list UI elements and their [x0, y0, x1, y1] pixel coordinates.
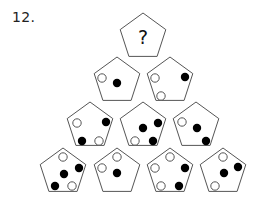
white-dot-icon	[166, 153, 174, 161]
white-dot-icon	[157, 182, 165, 190]
pentagon-p2-1	[94, 57, 140, 100]
black-dot-icon	[202, 137, 210, 145]
black-dot-icon	[149, 137, 157, 145]
white-dot-icon	[59, 153, 67, 161]
white-dot-icon	[211, 182, 219, 190]
black-dot-icon	[60, 170, 68, 178]
black-dot-icon	[102, 118, 110, 126]
black-dot-icon	[113, 79, 121, 87]
black-dot-icon	[193, 124, 201, 132]
white-dot-icon	[151, 74, 159, 82]
question-mark: ?	[138, 26, 148, 48]
black-dot-icon	[154, 119, 162, 127]
black-dot-icon	[139, 124, 147, 132]
black-dot-icon	[181, 164, 189, 172]
black-dot-icon	[234, 163, 242, 171]
white-dot-icon	[98, 74, 106, 82]
black-dot-icon	[220, 169, 228, 177]
pentagon-p3-1	[67, 102, 113, 145]
black-dot-icon	[181, 73, 189, 81]
pentagon-p1-1: ?	[120, 13, 166, 56]
white-dot-icon	[98, 164, 106, 172]
pentagon-pyramid-diagram: ?	[0, 0, 260, 200]
white-dot-icon	[113, 153, 121, 161]
pentagon-p3-2	[120, 102, 166, 145]
black-dot-icon	[51, 182, 59, 190]
black-dot-icon	[113, 169, 121, 177]
black-dot-icon	[75, 164, 83, 172]
pentagon-p2-2	[147, 57, 193, 100]
white-dot-icon	[131, 137, 139, 145]
white-dot-icon	[178, 118, 186, 126]
white-dot-icon	[68, 182, 76, 190]
pentagon-p4-4	[200, 148, 246, 191]
white-dot-icon	[73, 119, 81, 127]
white-dot-icon	[157, 92, 165, 100]
black-dot-icon	[78, 137, 86, 145]
white-dot-icon	[95, 137, 103, 145]
pentagon-p4-3	[147, 148, 193, 191]
pentagon-p4-1	[40, 148, 86, 191]
white-dot-icon	[151, 164, 159, 172]
pentagon-p4-2	[94, 148, 140, 191]
white-dot-icon	[219, 153, 227, 161]
black-dot-icon	[175, 182, 183, 190]
pentagon-p3-3	[173, 102, 219, 145]
